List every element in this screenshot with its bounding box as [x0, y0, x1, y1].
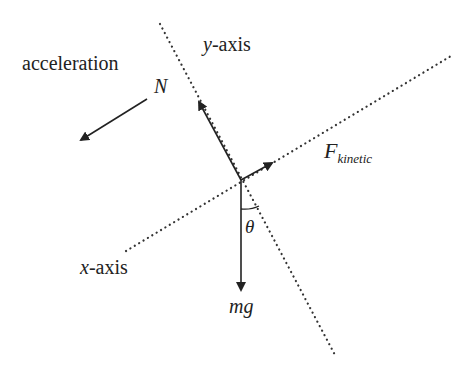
- friction-symbol: F: [324, 138, 337, 163]
- y-axis-variable: y: [203, 33, 212, 55]
- x-axis-line: [126, 56, 451, 251]
- acceleration-arrow: [81, 99, 147, 140]
- x-axis-label: x-axis: [80, 256, 128, 279]
- friction-force-arrow: [241, 163, 272, 180]
- acceleration-label: acceleration: [22, 52, 119, 75]
- y-axis-label: y-axis: [203, 33, 251, 56]
- y-axis-suffix: -axis: [212, 33, 251, 55]
- angle-arc: [241, 206, 259, 209]
- x-axis-suffix: -axis: [89, 256, 128, 278]
- x-axis-variable: x: [80, 256, 89, 278]
- normal-force-arrow: [199, 102, 241, 180]
- friction-subscript: kinetic: [337, 151, 372, 166]
- normal-force-label: N: [154, 75, 167, 98]
- angle-label: θ: [245, 216, 254, 238]
- friction-label: Fkinetic: [324, 138, 372, 164]
- weight-label: mg: [229, 295, 253, 318]
